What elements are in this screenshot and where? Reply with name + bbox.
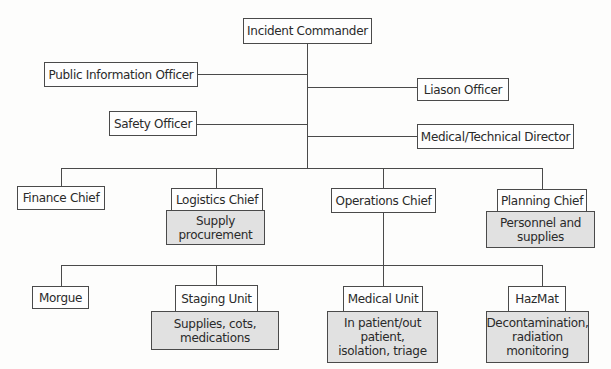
connector-liaison [307, 87, 417, 88]
logistics-chief-box: Logistics Chief [171, 188, 263, 211]
staging-note-box: Supplies, cots, medications [151, 311, 279, 350]
drop-finance [61, 168, 62, 187]
medical-unit-box: Medical Unit [343, 286, 423, 312]
connector-medtech [307, 136, 417, 137]
drop-operations [383, 168, 384, 188]
public-information-officer-box: Public Information Officer [44, 62, 198, 87]
staging-unit-box: Staging Unit [175, 285, 258, 312]
finance-chief-box: Finance Chief [17, 186, 105, 210]
planning-note-box: Personnel and supplies [486, 211, 595, 248]
drop-morgue [61, 265, 62, 286]
units-bar [61, 265, 543, 266]
drop-logistics [216, 168, 217, 188]
connector-safety [197, 124, 308, 125]
operations-chief-box: Operations Chief [331, 188, 436, 213]
connector-pio [198, 74, 308, 75]
medical-technical-director-box: Medical/Technical Director [417, 124, 574, 149]
incident-commander-box: Incident Commander [243, 18, 372, 44]
trunk-line [307, 43, 308, 169]
hazmat-note-box: Decontamination, radiation monitoring [486, 311, 589, 363]
morgue-box: Morgue [32, 286, 89, 309]
logistics-note-box: Supply procurement [166, 210, 265, 245]
operations-trunk [383, 213, 384, 286]
drop-staging [216, 265, 217, 285]
drop-hazmat [542, 265, 543, 286]
drop-planning [542, 168, 543, 189]
planning-chief-box: Planning Chief [497, 189, 587, 212]
medical-note-box: In patient/out patient, isolation, triag… [327, 311, 438, 363]
safety-officer-box: Safety Officer [109, 111, 197, 136]
hazmat-box: HazMat [508, 286, 566, 312]
liaison-officer-box: Liason Officer [417, 78, 509, 101]
chiefs-bar [61, 168, 543, 169]
